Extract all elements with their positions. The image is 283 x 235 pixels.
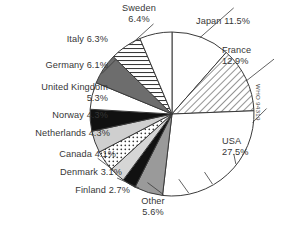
slice-label-finland: Finland 2.7% <box>20 185 130 196</box>
source-note: WHO 94319 <box>255 84 262 121</box>
slice-label-germany: Germany 6.1% <box>4 60 108 71</box>
slice-label-united-kingdom: United Kingdom 5.3% <box>2 82 108 103</box>
slice-label-canada: Canada 4.1% <box>6 149 116 160</box>
slice-label-netherlands: Netherlands 4.3% <box>0 128 110 139</box>
slice-label-sweden: Sweden 6.4% <box>108 3 170 24</box>
slice-label-denmark: Denmark 3.1% <box>12 167 122 178</box>
slice-label-other: Other 5.6% <box>125 196 181 217</box>
pie-chart-figure: Sweden 6.4% Japan 11.5% Italy 6.3% Franc… <box>0 0 283 235</box>
slice-label-italy: Italy 6.3% <box>24 34 108 45</box>
slice-label-usa: USA 27.5% <box>222 136 280 157</box>
slice-label-norway: Norway 4.3% <box>2 110 108 121</box>
slice-label-france: France 12.9% <box>222 45 282 66</box>
slice-label-japan: Japan 11.5% <box>196 16 280 27</box>
